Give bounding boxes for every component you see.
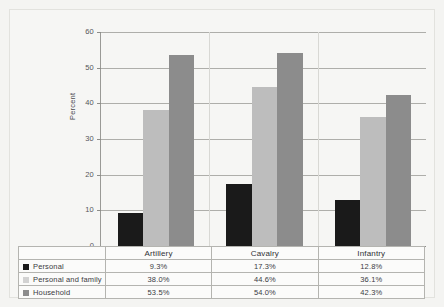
y-tick-label-60: 60 (54, 28, 94, 36)
group-separator-2 (318, 32, 319, 246)
bar-infantry-personal-and-family (360, 117, 386, 246)
table-cell-infantry: 36.1% (318, 273, 424, 286)
chart-figure: Percent 0102030405060 ArtilleryCavalryIn… (0, 0, 444, 307)
table-row: Personal9.3%17.3%12.8% (19, 260, 425, 273)
legend-swatch-icon (23, 277, 29, 283)
table-header: ArtilleryCavalryInfantry (19, 247, 425, 260)
table-header-row: ArtilleryCavalryInfantry (19, 247, 425, 260)
table-cell-artillery: 38.0% (105, 273, 211, 286)
legend-label: Personal and family (33, 275, 102, 284)
bar-artillery-personal-and-family (143, 110, 169, 246)
y-tick-label-20: 20 (54, 171, 94, 179)
bar-artillery-household (169, 55, 195, 246)
table-cell-cavalry: 17.3% (212, 260, 318, 273)
gridline-60 (101, 32, 426, 33)
legend-label: Personal (33, 262, 64, 271)
legend-item-personal[interactable]: Personal (19, 260, 106, 273)
gridline-50 (101, 68, 426, 69)
tick-mark-20 (97, 175, 101, 176)
bar-artillery-personal (118, 213, 144, 246)
legend-swatch-icon (23, 264, 29, 270)
tick-mark-30 (97, 139, 101, 140)
bar-infantry-personal (335, 200, 361, 246)
group-separator-1 (209, 32, 210, 246)
table-body: Personal9.3%17.3%12.8%Personal and famil… (19, 260, 425, 299)
table-column-header-artillery: Artillery (105, 247, 211, 260)
legend-label: Household (33, 288, 70, 297)
table-column-header-cavalry: Cavalry (212, 247, 318, 260)
table-row: Personal and family38.0%44.6%36.1% (19, 273, 425, 286)
bar-infantry-household (386, 95, 412, 246)
legend-item-household[interactable]: Household (19, 286, 106, 299)
y-tick-label-10: 10 (54, 206, 94, 214)
tick-mark-40 (97, 103, 101, 104)
plot-area (100, 32, 425, 246)
tick-mark-50 (97, 68, 101, 69)
bar-cavalry-household (277, 53, 303, 246)
bar-cavalry-personal-and-family (252, 87, 278, 246)
table-cell-infantry: 12.8% (318, 260, 424, 273)
y-tick-label-50: 50 (54, 64, 94, 72)
bar-cavalry-personal (226, 184, 252, 246)
table-cell-artillery: 9.3% (105, 260, 211, 273)
table-row: Household53.5%54.0%42.3% (19, 286, 425, 299)
table-corner-cell (19, 247, 106, 260)
tick-mark-10 (97, 210, 101, 211)
data-table: ArtilleryCavalryInfantry Personal9.3%17.… (18, 246, 425, 299)
table-cell-artillery: 53.5% (105, 286, 211, 299)
y-tick-label-30: 30 (54, 135, 94, 143)
legend-swatch-icon (23, 290, 29, 296)
table-cell-cavalry: 44.6% (212, 273, 318, 286)
table-cell-infantry: 42.3% (318, 286, 424, 299)
legend-item-personal-and-family[interactable]: Personal and family (19, 273, 106, 286)
tick-mark-60 (97, 32, 101, 33)
y-tick-label-40: 40 (54, 99, 94, 107)
table-column-header-infantry: Infantry (318, 247, 424, 260)
table-cell-cavalry: 54.0% (212, 286, 318, 299)
